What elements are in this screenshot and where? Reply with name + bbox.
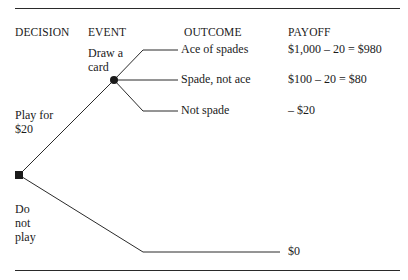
noplay-label-line2: not	[15, 217, 30, 230]
ace-branch-line	[114, 50, 178, 80]
payoff-ace-of-spades: $1,000 – 20 = $980	[288, 43, 382, 56]
noplay-label-line3: play	[15, 231, 36, 244]
play-label-line1: Play for	[15, 109, 53, 122]
notspade-branch-line	[114, 80, 178, 111]
outcome-ace-of-spades: Ace of spades	[181, 43, 248, 56]
outcome-not-spade: Not spade	[181, 104, 229, 117]
play-branch-line	[19, 80, 114, 175]
chance-node-circle-icon	[110, 76, 118, 84]
noplay-label-line1: Do	[15, 203, 30, 216]
event-label-line1: Draw a	[88, 47, 123, 60]
decision-node-square-icon	[15, 171, 23, 179]
payoff-not-spade: – $20	[288, 104, 315, 117]
event-label-line2: card	[88, 61, 109, 74]
outcome-spade-not-ace: Spade, not ace	[181, 73, 251, 86]
play-label-line2: $20	[15, 123, 33, 136]
noplay-branch-line	[19, 175, 280, 252]
payoff-no-play: $0	[288, 245, 300, 258]
payoff-spade-not-ace: $100 – 20 = $80	[288, 73, 367, 86]
